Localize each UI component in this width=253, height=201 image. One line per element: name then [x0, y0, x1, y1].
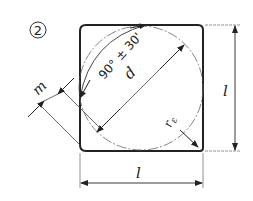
svg-text:rε: rε [161, 114, 180, 130]
svg-text:l: l [136, 164, 141, 182]
figure-number: 2 [30, 22, 46, 38]
svg-text:l: l [223, 82, 228, 100]
corner-radius-label: rε [161, 114, 198, 147]
right-dimension: l [205, 25, 240, 151]
corner-offset-dimension: m [28, 77, 100, 145]
bottom-dimension: l [80, 153, 203, 188]
svg-text:m: m [29, 77, 50, 98]
square-insert-diagram: 2 d 90° ± 30' m rε l [0, 0, 253, 201]
svg-text:2: 2 [34, 23, 42, 38]
diameter-label: d [120, 63, 140, 83]
